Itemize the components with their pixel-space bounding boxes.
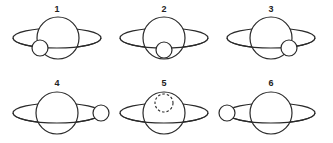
panel-label: 2 — [161, 4, 166, 14]
panel-label: 1 — [54, 4, 59, 14]
panel-label: 6 — [268, 78, 273, 88]
panel-label: 3 — [268, 4, 273, 14]
panel-4: 4 — [13, 78, 109, 134]
moon — [219, 105, 235, 121]
panel-label: 4 — [54, 78, 59, 88]
moon — [32, 40, 48, 56]
panel-3: 3 — [227, 4, 315, 59]
moon — [156, 42, 172, 58]
planet — [250, 92, 292, 134]
moon — [93, 105, 109, 121]
panel-label: 5 — [161, 78, 166, 88]
panel-1: 1 — [13, 4, 101, 59]
panel-5: 5 — [120, 78, 208, 134]
planet — [36, 92, 78, 134]
diagram-canvas: 1 2 3 4 5 6 — [0, 0, 333, 143]
planet — [143, 92, 185, 134]
panel-6: 6 — [219, 78, 315, 134]
moon — [281, 40, 297, 56]
panel-2: 2 — [120, 4, 208, 59]
